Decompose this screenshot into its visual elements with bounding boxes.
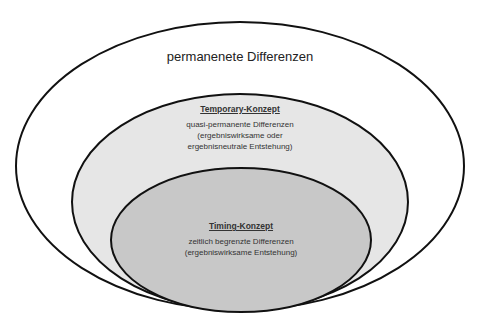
inner-title: Timing-Konzept: [209, 221, 273, 231]
inner-line-2: (ergebniswirksame Entstehung): [185, 247, 298, 258]
outer-label: permanenete Differenzen: [167, 49, 313, 64]
middle-line-2: (ergebniswirksame oder: [197, 130, 282, 141]
middle-line-1: quasi-permanente Differenzen: [186, 119, 293, 130]
middle-line-3: ergebnisneutrale Entstehung): [188, 141, 293, 152]
inner-line-1: zeitlich begrenzte Differenzen: [188, 236, 293, 247]
middle-title: Temporary-Konzept: [200, 104, 280, 114]
